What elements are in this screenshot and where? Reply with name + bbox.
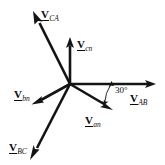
phasor-subscript-v-bc: BC — [17, 148, 27, 156]
phasor-symbol-v-bn: V — [14, 89, 22, 101]
phasor-subscript-v-bn: bn — [22, 95, 30, 103]
phasor-label-v-bc: VBC — [9, 138, 27, 155]
phasor-label-v-cn: Vcn — [77, 35, 92, 52]
phasor-symbol-v-cn: V — [77, 39, 85, 51]
phasor-symbol-v-an: V — [85, 115, 93, 127]
angle-annotation-30-label: 30° — [115, 85, 128, 95]
phasor-symbol-v-bc: V — [9, 142, 17, 154]
phasor-label-v-bn: Vbn — [14, 85, 30, 102]
phasor-subscript-v-ca: CA — [49, 15, 59, 23]
phasor-diagram-figure: VCA Vcn Vbn VBC Van VAB 30° — [0, 0, 165, 165]
phasor-subscript-v-an: an — [93, 121, 101, 129]
phasor-symbol-v-ca: V — [41, 9, 49, 21]
angle-arc-path — [105, 84, 112, 104]
phasor-symbol-v-ab: V — [130, 93, 138, 105]
phasor-vector-v-an — [70, 84, 113, 110]
phasor-subscript-v-cn: cn — [85, 45, 92, 53]
phasor-label-v-an: Van — [85, 111, 101, 128]
phasor-shaft-v-an — [70, 84, 104, 104]
phasor-shaft-v-ca — [40, 23, 71, 84]
phasor-subscript-v-ab: AB — [138, 99, 147, 107]
phasor-label-v-ab: VAB — [130, 89, 147, 106]
phasor-label-v-ca: VCA — [41, 5, 59, 22]
